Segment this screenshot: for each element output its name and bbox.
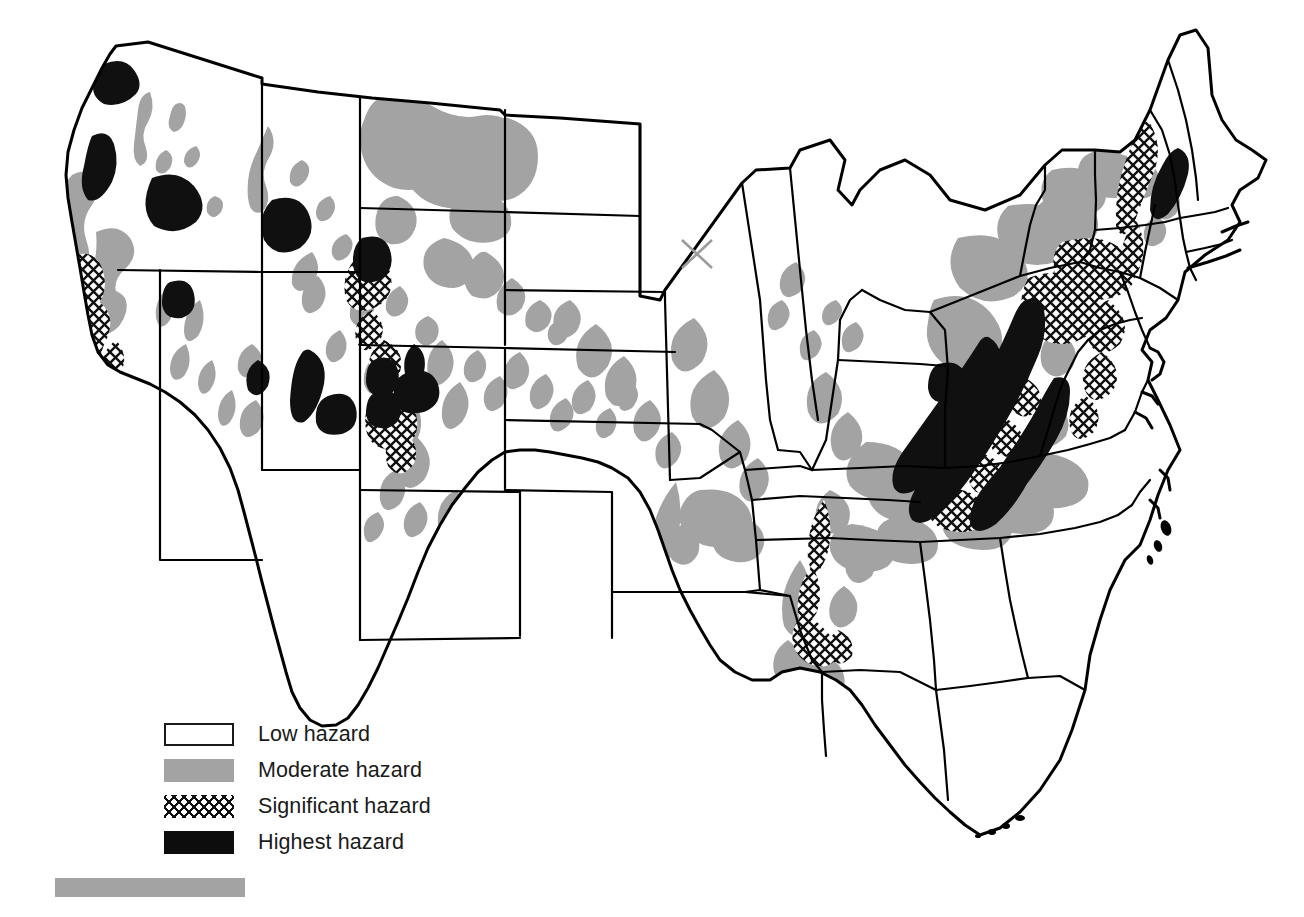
moderate-hazard-swatch xyxy=(164,759,234,782)
legend-row-moderate-hazard[interactable]: Moderate hazard xyxy=(164,752,564,788)
legend-label-highest-hazard: Highest hazard xyxy=(258,830,404,855)
legend-row-significant-hazard[interactable]: Significant hazard xyxy=(164,788,564,824)
significant-hazard-swatch xyxy=(164,795,234,818)
hazard-legend: Low hazard Moderate hazard Significant h… xyxy=(164,716,564,860)
legend-label-moderate-hazard: Moderate hazard xyxy=(258,758,422,783)
legend-label-significant-hazard: Significant hazard xyxy=(258,794,431,819)
landslide-hazard-map: Low hazard Moderate hazard Significant h… xyxy=(0,0,1304,917)
scale-bar xyxy=(55,878,245,897)
legend-row-low-hazard[interactable]: Low hazard xyxy=(164,716,564,752)
legend-row-highest-hazard[interactable]: Highest hazard xyxy=(164,824,564,860)
highest-hazard-swatch xyxy=(164,831,234,854)
legend-label-low-hazard: Low hazard xyxy=(258,722,370,747)
low-hazard-swatch xyxy=(164,723,234,746)
